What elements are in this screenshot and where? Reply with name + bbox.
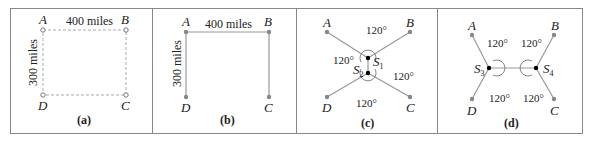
caption-c: (c) xyxy=(361,116,374,130)
label-d: D xyxy=(321,100,332,115)
angle-label-bottom-left: 120° xyxy=(489,92,510,104)
label-b: B xyxy=(406,15,414,30)
angle-label-top-right: 120° xyxy=(521,37,542,49)
node-d xyxy=(470,97,474,101)
caption-d: (d) xyxy=(504,116,519,130)
steiner-point-s3 xyxy=(487,66,491,70)
label-c: C xyxy=(550,103,559,118)
panel-c: A B D C S1 S2 120° 120° 120° 120° (c) xyxy=(321,15,415,130)
angle-label-bottom: 120° xyxy=(356,97,377,109)
node-b xyxy=(124,28,128,32)
vertical-distance-label: 300 miles xyxy=(26,39,40,86)
node-b xyxy=(552,33,556,37)
panel-b: A B D C 400 miles 300 miles (b) xyxy=(170,14,273,127)
steiner-point-s4 xyxy=(534,66,538,70)
label-s3: S3 xyxy=(474,61,485,78)
label-a: A xyxy=(181,14,190,29)
label-b: B xyxy=(264,14,272,29)
label-s1: S1 xyxy=(373,54,384,71)
angle-label-top-left: 120° xyxy=(487,37,508,49)
steiner-point-s2 xyxy=(366,71,370,75)
label-a: A xyxy=(467,18,476,33)
angle-label-top: 120° xyxy=(366,24,387,36)
label-b: B xyxy=(121,12,129,27)
node-a xyxy=(325,30,329,34)
node-d xyxy=(184,95,188,99)
node-d xyxy=(41,93,45,97)
node-a xyxy=(470,33,474,37)
angle-label-right: 120° xyxy=(393,70,414,82)
node-b xyxy=(267,30,271,34)
node-a xyxy=(184,30,188,34)
panel-a: A B D C 400 miles 300 miles (a) xyxy=(26,12,130,127)
panel-d: A B D C S3 S4 120° 120° 120° 120° (d) xyxy=(466,18,559,130)
label-a: A xyxy=(322,15,331,30)
vertical-distance-label: 300 miles xyxy=(170,40,184,87)
label-c: C xyxy=(406,100,415,115)
angle-label-bottom-right: 120° xyxy=(523,92,544,104)
label-d: D xyxy=(466,103,477,118)
label-a: A xyxy=(38,12,47,27)
label-b: B xyxy=(551,18,559,33)
horizontal-distance-label: 400 miles xyxy=(66,14,113,28)
label-s2: S2 xyxy=(353,62,364,79)
node-b xyxy=(408,30,412,34)
node-c xyxy=(408,95,412,99)
label-d: D xyxy=(180,100,191,115)
solid-path xyxy=(186,32,269,97)
steiner-tree-figure: A B D C 400 miles 300 miles (a) A B D C … xyxy=(0,0,596,144)
node-a xyxy=(41,28,45,32)
label-d: D xyxy=(37,98,48,113)
node-c xyxy=(267,95,271,99)
caption-b: (b) xyxy=(220,113,235,127)
label-s4: S4 xyxy=(543,61,554,78)
caption-a: (a) xyxy=(77,113,91,127)
node-c xyxy=(124,93,128,97)
node-d xyxy=(325,95,329,99)
angle-label-left: 120° xyxy=(333,54,354,66)
label-c: C xyxy=(121,98,130,113)
dashed-rectangle xyxy=(43,30,126,95)
horizontal-distance-label: 400 miles xyxy=(205,17,252,31)
label-c: C xyxy=(264,100,273,115)
steiner-point-s1 xyxy=(366,56,370,60)
node-c xyxy=(552,97,556,101)
